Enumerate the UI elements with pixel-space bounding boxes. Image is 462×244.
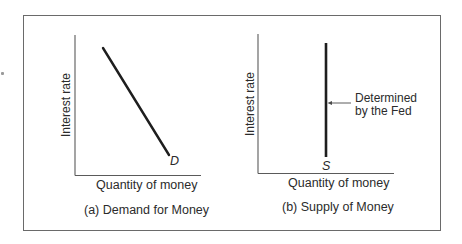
panel-b-x-axis-label: Quantity of money <box>288 176 389 190</box>
demand-curve-label: D <box>170 154 179 168</box>
demand-curve <box>103 48 169 155</box>
panel-a-caption: (a) Demand for Money <box>84 203 209 217</box>
panel-a-y-axis-label: Interest rate <box>59 73 73 137</box>
panel-b-caption: (b) Supply of Money <box>282 200 394 214</box>
panel-a-x-axis-label: Quantity of money <box>96 178 197 192</box>
panel-b-y-axis-label: Interest rate <box>243 72 257 136</box>
annotation-arrow-icon <box>328 101 352 105</box>
supply-curve-label: S <box>322 159 330 173</box>
annotation-line2: by the Fed <box>355 105 412 118</box>
